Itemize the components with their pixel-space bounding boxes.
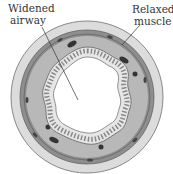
- label-relaxed-muscle: Relaxed muscle: [132, 3, 173, 27]
- label-line: Relaxed: [132, 3, 173, 15]
- label-line: Widened: [8, 2, 55, 14]
- label-widened-airway: Widened airway: [8, 2, 55, 26]
- label-line: muscle: [132, 15, 173, 27]
- label-line: airway: [8, 14, 55, 26]
